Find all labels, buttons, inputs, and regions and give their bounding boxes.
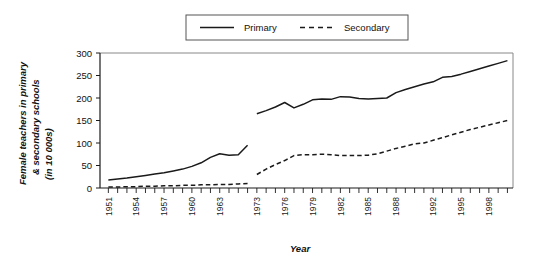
x-axis-ticks: 1951195419571960196319731976197919821985… bbox=[104, 188, 508, 216]
y-tick-label: 150 bbox=[76, 115, 92, 126]
y-tick-label: 200 bbox=[76, 93, 92, 104]
x-tick-label: 1979 bbox=[308, 197, 318, 216]
chart-legend: Primary Secondary bbox=[186, 15, 408, 40]
legend-label-primary: Primary bbox=[244, 22, 277, 33]
series-line-primary bbox=[257, 61, 508, 114]
x-tick-label: 1954 bbox=[131, 197, 141, 216]
series-line-primary bbox=[108, 145, 247, 180]
plot-frame bbox=[100, 53, 513, 188]
y-axis-title-line1: Female teachers in primary bbox=[17, 61, 28, 185]
y-tick-label: 0 bbox=[87, 183, 92, 194]
series-line-secondary bbox=[257, 121, 508, 175]
y-tick-label: 100 bbox=[76, 138, 92, 149]
x-tick-label: 1982 bbox=[336, 197, 346, 216]
x-tick-label: 1976 bbox=[280, 197, 290, 216]
x-tick-label: 1988 bbox=[391, 197, 401, 216]
x-axis-title: Year bbox=[290, 243, 312, 254]
y-tick-label: 50 bbox=[81, 160, 92, 171]
y-axis-title-line2: & secondary schools bbox=[30, 79, 41, 175]
x-tick-label: 1957 bbox=[159, 197, 169, 216]
chart-container: Primary Secondary 050100150200250300 195… bbox=[0, 0, 538, 264]
x-tick-label: 1992 bbox=[428, 197, 438, 216]
x-tick-label: 1998 bbox=[484, 197, 494, 216]
x-tick-label: 1995 bbox=[456, 197, 466, 216]
y-axis-title-line3: (in 10 000s) bbox=[43, 128, 54, 180]
x-tick-label: 1973 bbox=[252, 197, 262, 216]
legend-label-secondary: Secondary bbox=[344, 22, 390, 33]
x-tick-label: 1960 bbox=[187, 197, 197, 216]
y-axis-title: Female teachers in primary & secondary s… bbox=[17, 61, 54, 185]
y-axis-ticks: 050100150200250300 bbox=[76, 48, 100, 194]
y-tick-label: 250 bbox=[76, 70, 92, 81]
series-line-secondary bbox=[108, 184, 247, 188]
chart-series-lines bbox=[108, 61, 507, 187]
x-tick-label: 1951 bbox=[104, 197, 114, 216]
x-tick-label: 1985 bbox=[363, 197, 373, 216]
x-tick-label: 1963 bbox=[215, 197, 225, 216]
y-tick-label: 300 bbox=[76, 48, 92, 59]
line-chart: Primary Secondary 050100150200250300 195… bbox=[0, 0, 538, 264]
